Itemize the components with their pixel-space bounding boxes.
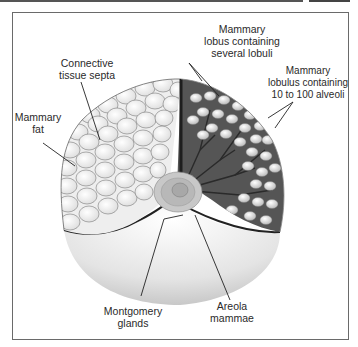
label-areola-mammae: Areola mammae: [206, 300, 258, 324]
label-mammary-lobulus: Mammary lobulus containing 10 to 100 alv…: [256, 65, 358, 101]
label-mammary-fat: Mammary fat: [12, 111, 64, 135]
label-mammary-lobus: Mammary lobus containing several lobuli: [186, 23, 298, 59]
label-connective-tissue-septa: Connective tissue septa: [42, 57, 132, 81]
label-montgomery-glands: Montgomery glands: [100, 305, 166, 329]
breast-anatomy-illustration: [0, 0, 358, 347]
areola: [154, 172, 202, 212]
